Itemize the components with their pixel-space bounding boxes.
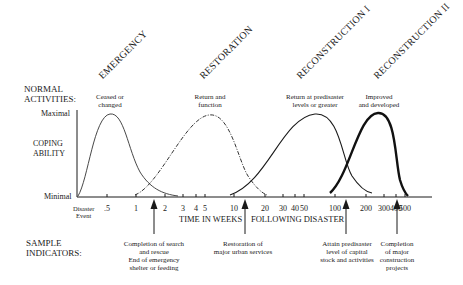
tick-label: 4 bbox=[194, 204, 198, 213]
maximal-label: Maximal bbox=[41, 109, 70, 118]
indicator-urban-services: Restoration of major urban services bbox=[203, 240, 283, 256]
indicator-1-line-4: shelter or feeding bbox=[114, 264, 194, 272]
activity-restoration-line-1: Return and bbox=[180, 93, 240, 101]
activity-emergency-line-2: changed bbox=[82, 101, 138, 109]
tick-label: 200 bbox=[360, 204, 372, 213]
disaster-event-line-2: Event bbox=[73, 212, 94, 219]
indicator-1-line-3: End of emergency bbox=[114, 256, 194, 264]
activity-restoration-line-2: function bbox=[180, 101, 240, 109]
tick-label: 5 bbox=[203, 204, 207, 213]
normal-activities-label: NORMAL ACTIVITIES: bbox=[24, 84, 76, 104]
disaster-event-label: Disaster Event bbox=[73, 205, 94, 219]
tick-label: 20 bbox=[261, 204, 269, 213]
indicator-4-line-2: of major bbox=[372, 248, 422, 256]
x-axis-title-right: FOLLOWING DISASTER bbox=[251, 214, 344, 224]
tick-label: 300 bbox=[378, 204, 390, 213]
reconstruction-2-curve bbox=[330, 113, 408, 196]
sample-indicators-line-1: SAMPLE bbox=[26, 238, 82, 248]
activity-reconstruction-1: Return at predisaster levels or greater bbox=[272, 93, 358, 109]
coping-ability-label: COPING ABILITY bbox=[33, 139, 65, 159]
tick-label: 10 bbox=[230, 204, 238, 213]
coping-ability-line-1: COPING bbox=[33, 139, 65, 149]
minimal-label: Minimal bbox=[44, 192, 72, 201]
sample-indicators-line-2: INDICATORS: bbox=[26, 248, 82, 258]
indicator-1-line-2: and rescue bbox=[114, 248, 194, 256]
indicator-4-line-4: projects bbox=[372, 264, 422, 272]
indicator-2-line-1: Restoration of bbox=[203, 240, 283, 248]
indicator-4-line-3: construction bbox=[372, 256, 422, 264]
sample-indicators-label: SAMPLE INDICATORS: bbox=[26, 238, 82, 258]
indicator-construction-projects: Completion of major construction project… bbox=[372, 240, 422, 272]
activity-reconstruction-1-line-1: Return at predisaster bbox=[272, 93, 358, 101]
activity-emergency: Ceased or changed bbox=[82, 93, 138, 109]
indicator-4-line-1: Completion bbox=[372, 240, 422, 248]
tick-label: 50 bbox=[300, 204, 308, 213]
normal-activities-line-2: ACTIVITIES: bbox=[24, 94, 76, 104]
activity-reconstruction-2-line-2: and developed bbox=[348, 101, 410, 109]
indicator-2-line-2: major urban services bbox=[203, 248, 283, 256]
tick-label: 100 bbox=[329, 204, 341, 213]
activity-restoration: Return and function bbox=[180, 93, 240, 109]
tick-label: 500 bbox=[399, 204, 411, 213]
tick-label: 40 bbox=[291, 204, 299, 213]
tick-label: 1 bbox=[134, 204, 138, 213]
activity-emergency-line-1: Ceased or bbox=[82, 93, 138, 101]
tick-label: .5 bbox=[104, 204, 110, 213]
activity-reconstruction-1-line-2: levels or greater bbox=[272, 101, 358, 109]
activity-reconstruction-2: Improved and developed bbox=[348, 93, 410, 109]
indicator-1-line-1: Completion of search bbox=[114, 240, 194, 248]
indicator-search-rescue: Completion of search and rescue End of e… bbox=[114, 240, 194, 272]
tick-label: 3 bbox=[181, 204, 185, 213]
x-axis-title-left: TIME IN WEEKS bbox=[179, 214, 242, 224]
disaster-event-line-1: Disaster bbox=[73, 205, 94, 212]
activity-reconstruction-2-line-1: Improved bbox=[348, 93, 410, 101]
coping-ability-line-2: ABILITY bbox=[33, 149, 65, 159]
tick-label: 30 bbox=[279, 204, 287, 213]
emergency-curve bbox=[78, 114, 178, 196]
normal-activities-line-1: NORMAL bbox=[24, 84, 76, 94]
tick-label: 2 bbox=[163, 204, 167, 213]
restoration-curve bbox=[135, 115, 267, 195]
